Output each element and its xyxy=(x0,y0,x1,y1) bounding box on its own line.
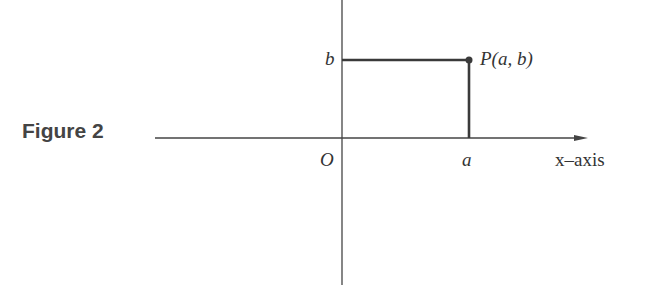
figure-canvas: Figure 2 b P(a, b) O a x–axis xyxy=(0,0,645,305)
origin-label: O xyxy=(320,149,334,171)
point-p-label: P(a, b) xyxy=(480,48,533,70)
x-tick-label-a: a xyxy=(462,149,472,171)
x-axis-arrowhead-icon xyxy=(574,135,588,141)
point-p-dot-icon xyxy=(466,57,473,64)
x-axis-label: x–axis xyxy=(555,149,605,171)
figure-caption: Figure 2 xyxy=(22,119,104,143)
y-tick-label-b: b xyxy=(325,48,335,70)
